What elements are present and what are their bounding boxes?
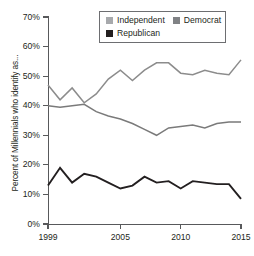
line-chart: Percent of Millennials who identify as..… (0, 0, 254, 256)
legend-label-democrat: Democrat (184, 16, 221, 25)
legend-label-independent: Independent (117, 16, 165, 25)
legend-entry-democrat: Democrat (172, 16, 221, 25)
series-line-independent (48, 60, 241, 103)
legend-swatch-democrat-icon (172, 16, 181, 25)
legend-entry-independent: Independent (105, 16, 165, 25)
legend-swatch-republican-icon (105, 29, 114, 38)
series-line-republican (48, 168, 241, 199)
legend-row-top: Independent Democrat (105, 16, 228, 25)
series-line-democrat (48, 104, 241, 135)
legend: Independent Democrat Republican (99, 11, 226, 43)
legend-row-bottom: Republican (105, 29, 167, 38)
legend-label-republican: Republican (117, 29, 160, 38)
legend-swatch-independent-icon (105, 16, 114, 25)
legend-entry-republican: Republican (105, 29, 160, 38)
